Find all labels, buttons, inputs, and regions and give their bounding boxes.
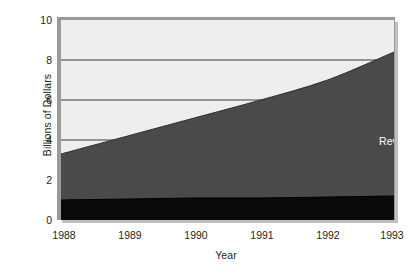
y-tick-label-6: 6 [30, 95, 52, 106]
y-tick-label-0: 0 [30, 215, 52, 226]
y-tick-label-2: 2 [30, 175, 52, 186]
stacked-area-plot [61, 20, 394, 220]
y-tick-label-4: 4 [30, 135, 52, 146]
x-axis-tick-labels: 1988 1989 1990 1991 1992 1993 [0, 230, 420, 246]
series-label-revenues: Revenues [379, 135, 394, 147]
chart-figure: Billions of Dollars 0 2 4 6 8 10 Revenue… [0, 0, 420, 277]
x-tick-label-1993: 1993 [368, 230, 416, 241]
x-tick-label-1990: 1990 [172, 230, 220, 241]
x-tick-label-1991: 1991 [238, 230, 286, 241]
plot-area: Revenues Operating Income [61, 20, 394, 220]
x-axis-title: Year [58, 249, 394, 261]
x-tick-label-1988: 1988 [40, 230, 88, 241]
x-tick-label-1992: 1992 [304, 230, 352, 241]
x-tick-label-1989: 1989 [106, 230, 154, 241]
y-tick-label-8: 8 [30, 55, 52, 66]
y-tick-label-10: 10 [30, 15, 52, 26]
